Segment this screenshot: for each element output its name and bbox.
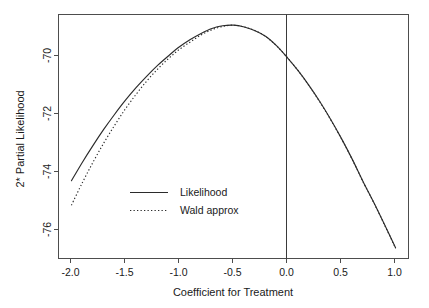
x-tick-label: 0.5 (333, 266, 348, 278)
plot-canvas: -70 -72 -74 -76 2* Partial Likelihood -2… (0, 0, 429, 308)
x-tick-label: 0.0 (279, 266, 294, 278)
y-tick-label: -70 (41, 48, 53, 63)
x-tick-label: -2.0 (61, 266, 79, 278)
x-tick-label: 1.0 (387, 266, 402, 278)
figure-background (0, 0, 429, 308)
x-tick-label: -1.5 (115, 266, 133, 278)
legend-label-likelihood: Likelihood (180, 186, 227, 198)
legend-label-wald: Wald approx (180, 204, 239, 216)
y-axis-title: 2* Partial Likelihood (14, 90, 26, 187)
x-axis-title: Coefficient for Treatment (173, 286, 293, 298)
y-tick-label: -72 (41, 106, 53, 121)
y-tick-label: -74 (41, 164, 53, 179)
x-tick-label: -1.0 (169, 266, 187, 278)
x-tick-label: -0.5 (223, 266, 241, 278)
likelihood-profile-figure: -70 -72 -74 -76 2* Partial Likelihood -2… (0, 0, 429, 308)
y-tick-label: -76 (41, 222, 53, 237)
